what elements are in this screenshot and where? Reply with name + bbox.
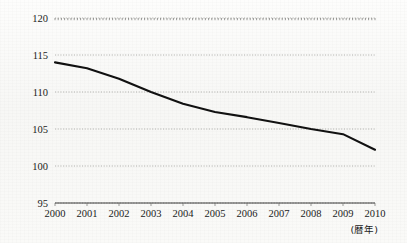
x-axis-tick-label: 2005: [205, 208, 226, 219]
y-axis-tick-label: 115: [33, 50, 48, 61]
line-chart: 95100105110115120 2000200120022003200420…: [0, 0, 407, 243]
x-axis-tick-label: 2006: [237, 208, 258, 219]
x-axis-labels-group: 2000200120022003200420052006200720082009…: [45, 208, 386, 219]
x-axis-tick-label: 2004: [173, 208, 195, 219]
x-axis-caption: (暦年): [351, 224, 378, 235]
x-axis-tick-label: 2000: [45, 208, 66, 219]
chart-canvas: 95100105110115120 2000200120022003200420…: [0, 0, 407, 243]
y-tick-marks-group: [55, 18, 375, 20]
x-axis-tick-label: 2008: [301, 208, 322, 219]
x-axis-tick-label: 2010: [365, 208, 386, 219]
y-axis-tick-label: 120: [32, 13, 48, 24]
x-axis-tick-label: 2002: [109, 208, 130, 219]
y-axis-labels-group: 95100105110115120: [32, 13, 48, 209]
data-series-group: [55, 62, 375, 149]
x-axis-tick-label: 2001: [77, 208, 98, 219]
x-axis-tick-label: 2007: [269, 208, 290, 219]
gridlines-group: [55, 18, 375, 203]
y-axis-tick-label: 100: [32, 161, 48, 172]
y-axis-tick-label: 110: [33, 87, 48, 98]
y-axis-tick-label: 105: [32, 124, 48, 135]
x-axis-tick-label: 2003: [141, 208, 162, 219]
y-axis-tick-label: 95: [38, 198, 49, 209]
x-axis-tick-label: 2009: [333, 208, 354, 219]
data-line: [55, 62, 375, 149]
